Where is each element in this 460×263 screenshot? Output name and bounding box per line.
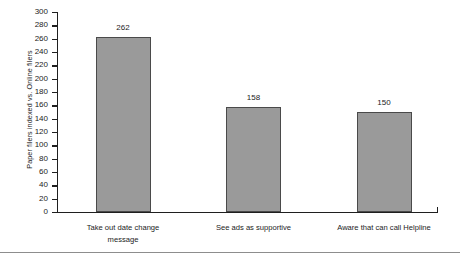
y-axis-tick-label: 60 xyxy=(24,168,48,176)
y-axis-tick-mark xyxy=(52,65,57,66)
y-axis-tick-label: 80 xyxy=(24,155,48,163)
y-axis-tick-label: 200 xyxy=(24,75,48,83)
y-axis-tick-mark xyxy=(52,105,57,106)
y-axis-tick-mark xyxy=(52,52,57,53)
y-axis-tick-label: 280 xyxy=(24,21,48,29)
y-axis-tick-mark xyxy=(52,199,57,200)
y-axis-tick-label: 140 xyxy=(24,115,48,123)
bar xyxy=(357,112,412,212)
y-axis-tick-mark xyxy=(52,172,57,173)
y-axis-tick-labels: 3002802602402202001801601401201008060402… xyxy=(24,8,48,213)
y-axis-tick-mark xyxy=(52,92,57,93)
y-axis-tick-mark xyxy=(52,119,57,120)
bar-value-label: 150 xyxy=(354,98,414,107)
bar-value-label: 158 xyxy=(224,93,284,102)
y-axis-tick-label: 20 xyxy=(24,195,48,203)
y-axis-tick-label: 0 xyxy=(24,208,48,216)
y-axis-tick-mark xyxy=(52,132,57,133)
bar xyxy=(226,107,281,212)
bar-value-label: 262 xyxy=(93,23,153,32)
y-axis-tick-label: 220 xyxy=(24,61,48,69)
bar xyxy=(96,37,151,212)
y-axis-tick-label: 160 xyxy=(24,101,48,109)
y-axis-tick-mark xyxy=(52,159,57,160)
x-axis-category-label: Aware that can call Helpline xyxy=(309,222,459,234)
y-axis-tick-mark xyxy=(52,145,57,146)
y-axis-tick-mark xyxy=(52,25,57,26)
y-axis-tick-mark xyxy=(52,12,57,13)
x-axis-category-label: See ads as supportive xyxy=(179,222,329,234)
y-axis-tick-mark xyxy=(52,212,57,213)
x-axis-end-tick xyxy=(437,207,438,213)
y-axis-tick-label: 240 xyxy=(24,48,48,56)
y-axis-tick-label: 180 xyxy=(24,88,48,96)
y-axis-tick-label: 300 xyxy=(24,8,48,16)
x-axis-category-label: Take out date changemessage xyxy=(48,222,198,245)
y-axis-tick-label: 100 xyxy=(24,141,48,149)
y-axis-tick-label: 260 xyxy=(24,35,48,43)
y-axis-line xyxy=(57,12,58,213)
y-axis-tick-label: 40 xyxy=(24,181,48,189)
bar-chart-screenshot: Paper filers indexed vs. Online filers 3… xyxy=(0,0,460,263)
y-axis-tick-mark xyxy=(52,79,57,80)
chart-plot-area: Paper filers indexed vs. Online filers 3… xyxy=(0,0,460,248)
x-axis-line xyxy=(57,212,438,213)
y-axis-tick-label: 120 xyxy=(24,128,48,136)
bottom-divider xyxy=(0,252,460,253)
y-axis-tick-mark xyxy=(52,185,57,186)
y-axis-tick-mark xyxy=(52,39,57,40)
